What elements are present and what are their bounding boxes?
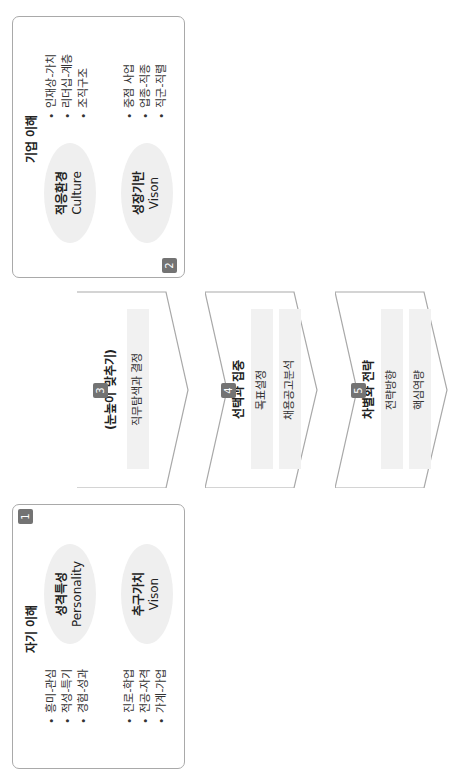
bullet-item: 적성-특기 [60,669,76,724]
bullet-item: 직군-직렬 [154,64,170,119]
bullet-item: 중점 사업 [122,64,138,119]
personality-ellipse: 성격특성 Personality [44,544,96,644]
personality-label-ko: 성격특성 [55,572,70,616]
step-5-item-core-competency: 핵심역량 [409,310,431,470]
self-bullets-top: 흥미-관심 적성-특기 경험-성과 [44,669,92,724]
pursued-value-ellipse: 추구가치 Vison [121,544,173,644]
growth-base-ellipse: 성장기반 Vison [121,143,173,243]
step-1-badge: 1 [18,509,33,524]
pursued-value-label-ko: 추구가치 [132,572,147,616]
bullet-item: 가계-가업 [154,669,170,724]
pursued-value-label-en: Vison [147,578,162,610]
step-4-item-goal: 목표설정 [251,310,273,470]
culture-ellipse: 적응환경 Culture [44,143,96,243]
bullet-item: 전공-자격 [138,669,154,724]
self-understanding-title: 자기 이해 [22,605,39,653]
bullet-item: 경험-성과 [76,669,92,724]
bullet-item: 업종-직종 [138,64,154,119]
culture-label-ko: 적응환경 [55,171,70,215]
personality-label-en: Personality [70,561,85,627]
bullet-item: 진로-학업 [122,669,138,724]
bullet-item: 인재상-가치 [44,54,60,119]
self-bullets-bottom: 진로-학업 전공-자격 가계-가업 [122,669,170,724]
growth-base-label-ko: 성장기반 [132,171,147,215]
step-5-item-strategy: 전략방향 [381,310,403,470]
bullet-item: 리더십-계층 [60,54,76,119]
company-bullets-top: 인재상-가치 리더십-계층 조직구조 [44,54,92,119]
culture-label-en: Culture [70,171,85,215]
step-4-item-job-posting: 채용공고분석 [279,310,301,470]
step-3-badge: 3 [93,383,108,398]
step-3-item: 직무탐색과 결정 [127,310,149,470]
growth-base-label-en: Vison [147,177,162,209]
step-5-badge: 5 [351,383,366,398]
step-4-badge: 4 [221,383,236,398]
company-understanding-title: 기업 이해 [22,115,39,163]
bullet-item: 조직구조 [76,54,92,119]
bullet-item: 흥미-관심 [44,669,60,724]
step-2-badge: 2 [162,258,177,273]
company-bullets-bottom: 중점 사업 업종-직종 직군-직렬 [122,64,170,119]
